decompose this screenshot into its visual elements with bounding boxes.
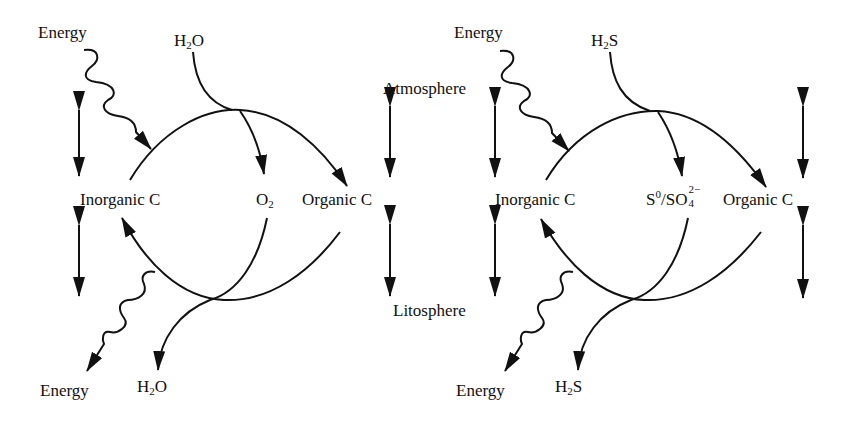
energy-out-label-left: Energy — [40, 382, 89, 399]
atmosphere-label: Atmosphere — [383, 80, 466, 97]
carbon-cycle-diagram — [0, 0, 848, 424]
fixation-arc-right — [546, 111, 766, 187]
energy-in-wavy-arrow-right — [500, 51, 569, 151]
water-in-curve — [193, 52, 232, 110]
water-out-curve — [158, 218, 267, 370]
energy-out-wavy-arrow-right — [505, 272, 573, 371]
organic-carbon-label-right: Organic C — [723, 191, 793, 208]
oxygen-label: O2 — [256, 191, 274, 210]
fixation-arc-left — [130, 110, 347, 186]
inorganic-carbon-label-left: Inorganic C — [80, 191, 160, 208]
energy-in-label-right: Energy — [454, 24, 503, 41]
respiration-arc-right — [541, 219, 761, 300]
sulfur-branch-arrow — [658, 112, 682, 176]
sulfide-out-curve — [578, 218, 688, 370]
sulfide-in-label: H2S — [591, 32, 618, 51]
organic-carbon-label-left: Organic C — [302, 191, 372, 208]
water-out-label: H2O — [137, 378, 167, 397]
sulfide-in-curve — [610, 52, 650, 111]
sulfide-out-label: H2S — [555, 378, 582, 397]
sulfur-sulfate-label: S0/SO2−4 — [646, 189, 707, 208]
energy-out-wavy-arrow-left — [87, 272, 155, 371]
energy-out-label-right: Energy — [456, 382, 505, 399]
inorganic-carbon-label-right: Inorganic C — [495, 191, 575, 208]
energy-in-label-left: Energy — [38, 24, 87, 41]
energy-in-wavy-arrow-left — [84, 50, 151, 149]
water-in-label: H2O — [174, 32, 204, 51]
litosphere-label: Litosphere — [393, 302, 466, 319]
oxygen-branch-arrow — [240, 111, 264, 174]
